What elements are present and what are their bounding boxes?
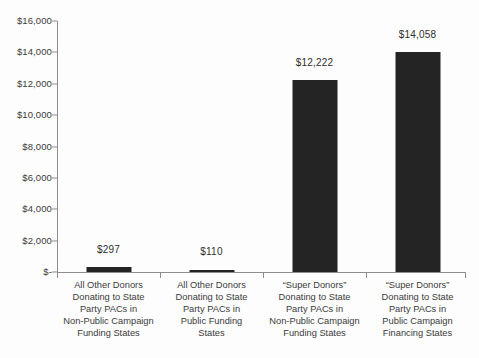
bar (292, 80, 337, 272)
y-axis-tick-label: $14,000 (0, 47, 52, 57)
bar-value-label: $110 (200, 246, 222, 257)
bar (189, 270, 234, 272)
y-axis-tick-label: $2,000 (0, 236, 52, 246)
bar-value-label: $297 (97, 244, 120, 255)
bar (395, 52, 440, 272)
x-axis-tickmark (57, 273, 58, 278)
y-axis-tick-label: $12,000 (0, 79, 52, 89)
x-axis-category-label: “Super Donors” Donating to State Party P… (263, 279, 366, 358)
bar-chart: $16,000 $14,000 $12,000 $10,000 $8,000 $… (0, 0, 479, 358)
plot-area: $297 $110 $12,222 $14,058 (57, 21, 465, 272)
x-axis-category-labels: All Other Donors Donating to State Party… (57, 279, 469, 358)
x-axis-tickmark (263, 273, 264, 278)
bar (86, 267, 131, 272)
x-axis-category-label: All Other Donors Donating to State Party… (160, 279, 263, 358)
x-axis-category-label: “Super Donors” Donating to State Party P… (366, 279, 469, 358)
y-axis-tick-label: $6,000 (0, 173, 52, 183)
x-axis-line (57, 272, 466, 273)
y-axis-tick-label: $10,000 (0, 110, 52, 120)
bar-value-label: $12,222 (296, 57, 334, 68)
y-axis-tick-label: $- (0, 267, 52, 277)
y-axis-tick-label: $16,000 (0, 16, 52, 26)
bar-value-label: $14,058 (399, 29, 437, 40)
x-axis-category-label: All Other Donors Donating to State Party… (57, 279, 160, 358)
y-axis-tick-label: $8,000 (0, 142, 52, 152)
x-axis-tickmark (465, 273, 466, 278)
x-axis-tickmark (366, 273, 367, 278)
y-axis-tick-label: $4,000 (0, 204, 52, 214)
y-axis-tick-labels: $16,000 $14,000 $12,000 $10,000 $8,000 $… (0, 0, 52, 358)
x-axis-tickmark (160, 273, 161, 278)
